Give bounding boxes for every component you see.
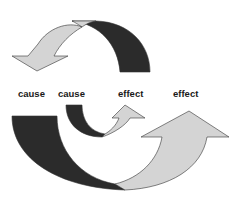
large-arrow-dark-segment <box>12 116 125 190</box>
top-arrow-dark-segment <box>72 21 150 72</box>
label-cause-2: cause <box>58 88 85 100</box>
diagram-canvas <box>0 0 236 202</box>
small-arrow-dark-segment <box>66 105 105 137</box>
large-arrow-light-segment <box>115 111 229 190</box>
top-arrow-light-segment <box>12 21 96 71</box>
small-arrow-light-segment <box>102 105 145 137</box>
label-effect-1: effect <box>118 88 143 100</box>
label-effect-2: effect <box>173 88 198 100</box>
label-cause-1: cause <box>18 88 45 100</box>
